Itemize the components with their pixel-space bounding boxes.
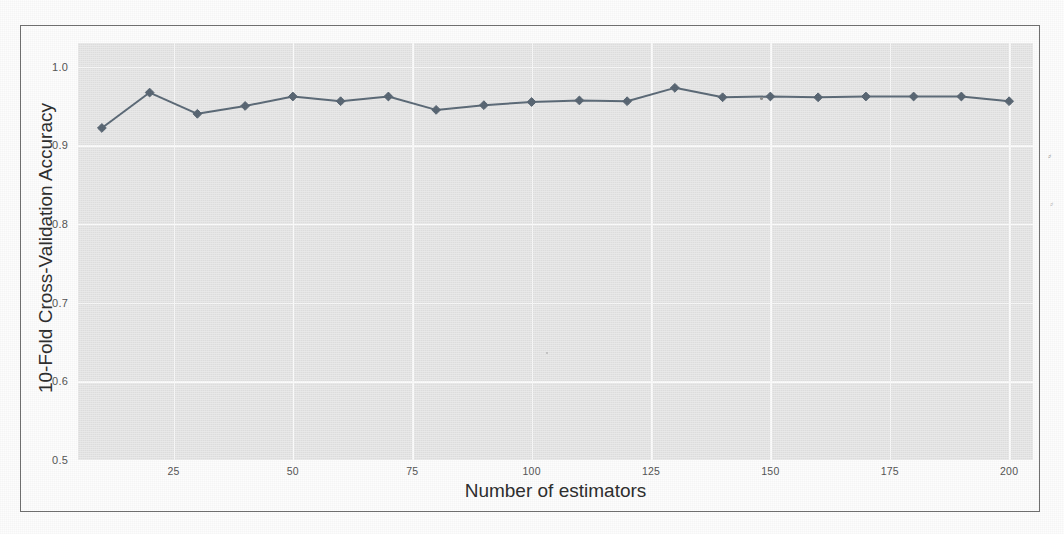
data-point-marker: [623, 97, 632, 106]
data-point-marker: [1005, 97, 1014, 106]
data-point-marker: [957, 92, 966, 101]
x-tick-label: 100: [523, 465, 541, 477]
data-point-marker: [766, 92, 775, 101]
data-point-marker: [575, 96, 584, 105]
data-point-marker: [909, 92, 918, 101]
data-point-marker: [241, 102, 250, 111]
data-point-marker: [670, 83, 679, 92]
x-tick-label: 50: [287, 465, 299, 477]
x-tick-label: 200: [1000, 465, 1018, 477]
x-tick-label: 75: [406, 465, 418, 477]
data-point-marker: [718, 93, 727, 102]
data-point-marker: [384, 92, 393, 101]
x-tick-label: 175: [881, 465, 899, 477]
scan-edge-mark: ⸗: [1048, 150, 1051, 161]
x-tick-label: 25: [167, 465, 179, 477]
data-point-marker: [432, 105, 441, 114]
x-axis-label: Number of estimators: [78, 480, 1033, 502]
data-point-marker: [288, 92, 297, 101]
data-point-marker: [861, 92, 870, 101]
plot-area: [78, 43, 1033, 460]
data-point-marker: [527, 98, 536, 107]
data-line: [102, 88, 1009, 128]
data-point-marker: [814, 93, 823, 102]
scan-edge-mark: ⸗: [1050, 198, 1053, 209]
data-series-layer: [78, 43, 1033, 460]
x-tick-label: 150: [761, 465, 779, 477]
y-axis-label: 10-Fold Cross-Validation Accuracy: [35, 38, 57, 458]
chart-page: 0.50.60.70.80.91.0 255075100125150175200…: [0, 0, 1064, 534]
data-point-marker: [479, 101, 488, 110]
figure: 0.50.60.70.80.91.0 255075100125150175200…: [20, 25, 1040, 512]
x-axis-tick-labels: 255075100125150175200: [78, 465, 1033, 481]
x-tick-label: 125: [642, 465, 660, 477]
data-point-marker: [193, 109, 202, 118]
data-point-marker: [336, 97, 345, 106]
